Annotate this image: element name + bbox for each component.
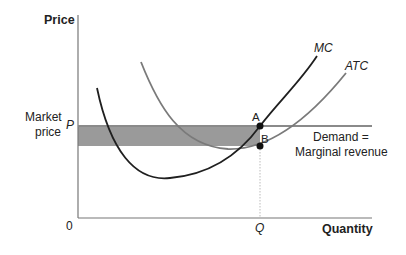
profit-area <box>78 126 260 146</box>
quantity-tick-label: Q <box>255 221 264 235</box>
x-axis-label: Quantity <box>322 222 373 236</box>
demand-label-line2: Marginal revenue <box>295 145 388 159</box>
profit-maximization-chart: Price Quantity 0 Market price P Q MC ATC… <box>0 0 406 255</box>
point-a-marker <box>257 123 264 130</box>
point-a-label: A <box>252 111 260 123</box>
mc-curve <box>97 56 317 178</box>
atc-label: ATC <box>344 59 368 73</box>
origin-label: 0 <box>66 219 73 233</box>
mc-label: MC <box>314 41 333 55</box>
point-b-label: B <box>261 133 269 145</box>
market-price-label-line1: Market <box>25 110 62 124</box>
market-price-label-line2: price <box>35 125 61 139</box>
demand-label-line1: Demand = <box>313 130 369 144</box>
y-axis-label: Price <box>44 13 75 27</box>
price-tick-label: P <box>66 118 74 132</box>
